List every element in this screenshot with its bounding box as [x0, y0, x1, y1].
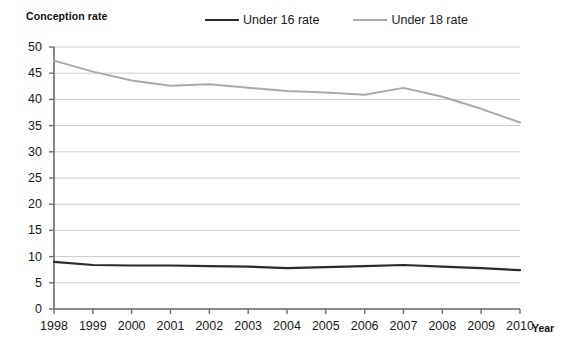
series-line-under-16-rate	[54, 262, 520, 270]
plot-area: 05101520253035404550 1998199920002001200…	[0, 0, 587, 357]
x-axis-title: Year	[532, 322, 554, 334]
plot-svg	[0, 0, 587, 357]
series-line-under-18-rate	[54, 61, 520, 123]
gridlines	[54, 47, 520, 309]
conception-rate-line-chart: Conception rate Under 16 rate Under 18 r…	[0, 0, 587, 357]
